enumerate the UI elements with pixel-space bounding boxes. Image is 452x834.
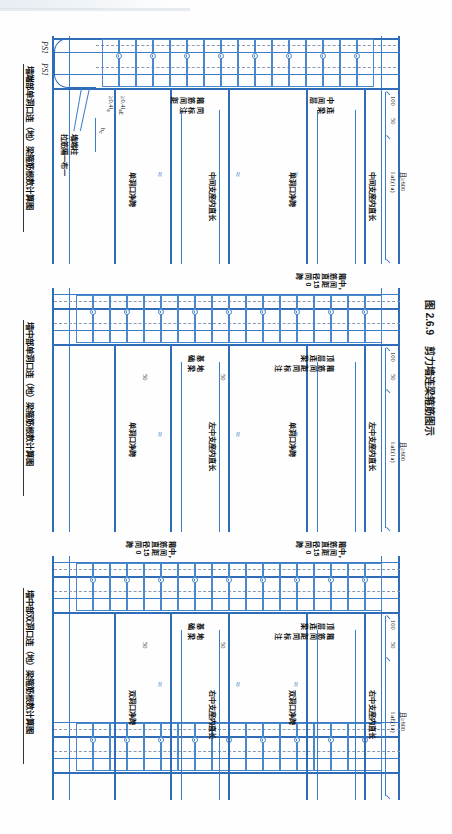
dimension-50: 50	[220, 374, 226, 380]
dimension-100: 100	[390, 96, 396, 106]
dimension-rail	[385, 92, 386, 260]
beam-edge	[170, 88, 172, 264]
ps1-label: PS1	[40, 41, 48, 54]
top-beam-title: 顶层连梁	[300, 622, 334, 631]
wall-line	[52, 288, 54, 532]
dimension-100: 100	[390, 620, 396, 630]
beam-rebar	[355, 362, 356, 532]
beam-edge	[114, 612, 116, 800]
stirrup-spacing-note2: 同标注	[178, 106, 204, 115]
figure-number: 图 2.6.9	[424, 300, 435, 335]
clear-span-label: 单洞口净跨	[289, 172, 296, 207]
stirrup-spacing-note: 箍筋间距	[170, 96, 204, 105]
scan-edge-artifact-2	[0, 8, 190, 11]
wall-line	[69, 556, 70, 800]
wall-line	[69, 288, 70, 532]
left-support-length-label: 左中支座内直长	[369, 422, 376, 471]
beam-rebar	[317, 110, 318, 264]
dimension-rail	[385, 616, 386, 796]
beam-edge	[114, 88, 116, 264]
leader-line	[80, 88, 90, 131]
wall-line	[398, 556, 400, 800]
wall-edge	[54, 344, 400, 346]
wall-line	[52, 556, 54, 800]
drawing-sheet-inner: PS1 PS1 墙端柱 拉筋隔一布一 ≈ ≈	[26, 22, 426, 812]
left-support-length-label: 左中支座内直长	[209, 422, 216, 471]
anchorage-sub: a	[106, 109, 112, 111]
support-length-label: 中间支座内直长	[209, 172, 216, 221]
rotated-drawing-sheet: PS1 PS1 墙端柱 拉筋隔一布一 ≈ ≈	[26, 22, 426, 812]
beam-rebar	[317, 362, 318, 532]
caption-underline	[23, 588, 24, 764]
dimension-50: 50	[390, 642, 396, 648]
figure-caption: 图 2.6.9 剪力墙连梁箍筋图示	[423, 300, 438, 436]
caption-underline	[23, 64, 24, 232]
clear-span-label: 双洞口净跨	[289, 690, 296, 725]
dimension-ge600: 且≥600	[400, 172, 406, 191]
wall-end-column-cap	[54, 38, 96, 88]
beam-edge	[364, 88, 366, 264]
figure-title: 剪力墙连梁箍筋图示	[424, 346, 435, 436]
caption-underline	[23, 320, 24, 496]
right-support-length-label: 右中支座内直长	[209, 690, 216, 739]
subfigure-b-caption: 墙中部单洞口连（地）梁箍筋根数计算图	[26, 322, 34, 466]
ps1-label: PS1	[40, 63, 48, 76]
right-support-length-label: 右中支座内直长	[369, 690, 376, 739]
dimension-hc-sub: c	[98, 131, 104, 133]
subfigure-c-caption: 墙端部单洞口连（地）梁箍筋根数计算图	[26, 66, 34, 210]
dimension-100: 100	[390, 352, 396, 362]
beam-edge	[228, 344, 230, 532]
dimension-rail	[385, 348, 386, 528]
beam-edge	[306, 88, 308, 264]
dimension-50: 50	[390, 118, 396, 124]
top-beam-title: 顶层连梁	[300, 354, 334, 363]
wall-stirrup-note-2: 中，间距150	[303, 280, 346, 289]
beam-edge	[114, 344, 116, 532]
dimension-50: 50	[220, 642, 226, 648]
dimension-lae: l aE(l a)	[390, 172, 396, 193]
foundation-title2: 地梁	[187, 364, 204, 373]
beam-edge	[170, 344, 172, 532]
wall-end-column-label: 墙端柱	[71, 134, 78, 155]
foundation-title: 基础	[187, 622, 204, 631]
mid-beam-title: 中间层	[308, 96, 334, 105]
beam-rebar	[219, 630, 220, 800]
wall-stirrup-note-2: 中，间距150	[133, 548, 176, 557]
dimension-ge600: 且≥600	[400, 712, 406, 731]
wall-stirrup-note-2: 中，间距150	[303, 548, 346, 557]
top-beam-sub: 箍筋间距同标注	[274, 364, 334, 373]
beam-rebar	[181, 362, 182, 532]
anchorage-04lae: ≥0.4l	[120, 96, 127, 109]
clear-span-label: 单洞口净跨	[289, 422, 296, 457]
clear-span-label: 单洞口净跨	[129, 422, 136, 457]
dimension-50: 50	[390, 374, 396, 380]
wall-line	[381, 36, 382, 264]
dimension-lae: l aE(l a)	[390, 442, 396, 463]
beam-edge	[170, 612, 172, 800]
anchorage-sub: aE	[118, 109, 124, 115]
beam-rebar	[317, 630, 318, 800]
anchorage-04la: ≥0.4l	[108, 96, 115, 109]
beam-rebar	[219, 362, 220, 532]
beam-edge	[228, 88, 230, 264]
subfigure-a-caption: 墙中部双洞口连（地）梁箍筋根数计算图	[26, 590, 34, 734]
beam-rebar	[181, 630, 182, 800]
mid-beam-title2: 连梁	[317, 106, 334, 115]
dimension-rail-hc	[95, 118, 96, 152]
page-canvas: PS1 PS1 墙端柱 拉筋隔一布一 ≈ ≈	[0, 0, 452, 834]
beam-rebar	[355, 110, 356, 264]
clear-span-label: 单洞口净跨	[129, 172, 136, 207]
beam-edge	[364, 344, 366, 532]
beam-rebar	[181, 110, 182, 264]
dimension-50: 50	[142, 374, 148, 380]
clear-span-label: 双洞口净跨	[129, 690, 136, 725]
foundation-title: 基础	[187, 354, 204, 363]
beam-rebar	[219, 110, 220, 264]
wall-edge	[54, 612, 400, 614]
wall-line	[398, 36, 400, 264]
foundation-title2: 地梁	[187, 632, 204, 641]
dimension-lae: l aE(l a)	[390, 712, 396, 733]
wall-line	[398, 288, 400, 532]
dimension-50: 50	[142, 642, 148, 648]
tie-spacing-label: 拉筋隔一布一	[61, 134, 68, 176]
